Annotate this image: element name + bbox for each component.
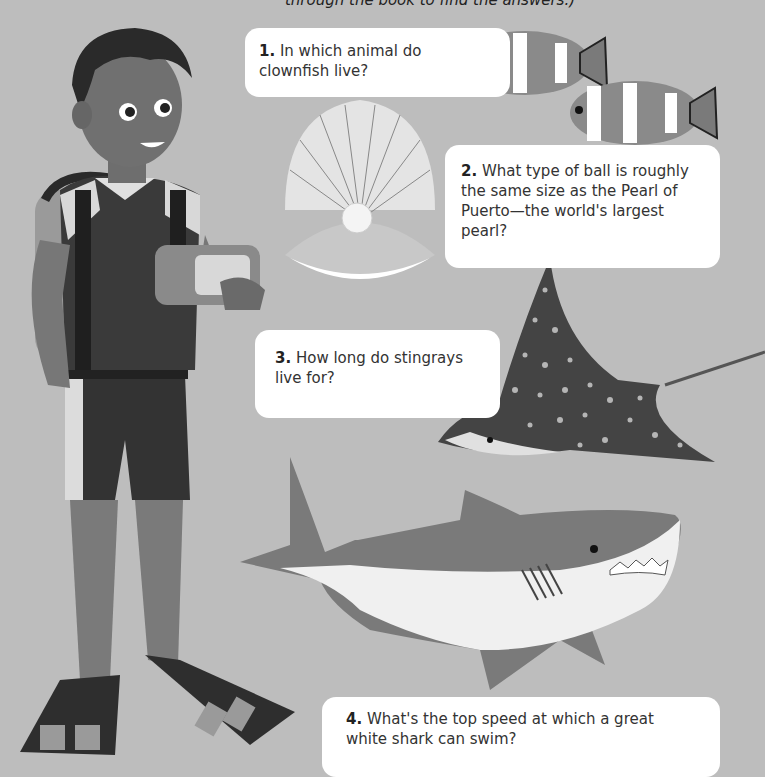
question-1-box: 1. In which animal do clownfish live? — [245, 28, 510, 97]
pearl-shell-illustration — [285, 100, 435, 279]
diver-boy-illustration — [20, 28, 295, 755]
question-number: 3. — [275, 349, 291, 367]
shark-illustration — [240, 457, 681, 690]
question-number: 4. — [346, 710, 362, 728]
question-text: How long do stingrays live for? — [275, 349, 463, 387]
question-number: 2. — [461, 162, 477, 180]
question-3-box: 3. How long do stingrays live for? — [255, 330, 500, 418]
question-4-box: 4. What's the top speed at which a great… — [322, 697, 720, 777]
question-text: What type of ball is roughly the same si… — [461, 162, 689, 240]
question-text: In which animal do clownfish live? — [259, 42, 421, 80]
question-text: What's the top speed at which a great wh… — [346, 710, 654, 748]
question-2-box: 2. What type of ball is roughly the same… — [445, 145, 720, 268]
question-number: 1. — [259, 42, 275, 60]
